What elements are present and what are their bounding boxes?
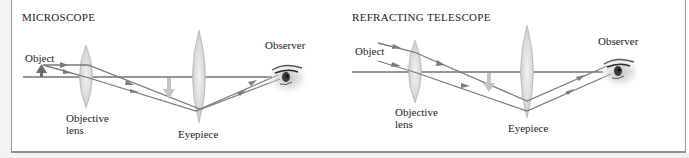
telescope-observer-label: Observer [598, 35, 638, 47]
microscope-eyepiece-label: Eyepiece [178, 128, 218, 140]
microscope-ray-upper [43, 65, 278, 109]
ray-arrow-icon [60, 62, 68, 68]
telescope-observer-eye-icon [598, 55, 642, 89]
telescope-eyepiece-label: Eyepiece [508, 122, 548, 134]
ray-arrow-icon [391, 62, 401, 67]
ray-arrow-icon [63, 69, 71, 74]
ray-arrow-icon [436, 60, 445, 66]
microscope-ray-lower [43, 65, 280, 111]
microscope-title: MICROSCOPE [22, 11, 95, 23]
microscope-object-label: Object [25, 52, 54, 64]
microscope-objective-label-line1: Objective [66, 112, 109, 124]
telescope-eyepiece-lens [521, 25, 534, 118]
ray-arrow-icon [461, 83, 470, 88]
ray-arrow-icon [576, 75, 585, 81]
microscope-objective-label-line2: lens [66, 124, 84, 136]
telescope-objective-label-line1: Objective [395, 106, 438, 118]
telescope-title: REFRACTING TELESCOPE [352, 11, 491, 23]
optics-diagram [0, 0, 689, 158]
telescope-objective-label-line2: lens [395, 118, 413, 130]
microscope-observer-eye-icon [266, 61, 310, 95]
telescope-object-label: Object [355, 45, 384, 57]
microscope-observer-label: Observer [265, 39, 305, 51]
